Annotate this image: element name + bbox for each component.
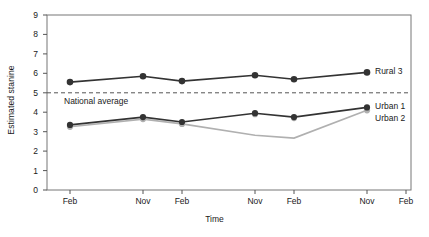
x-tick-label-3: Nov: [235, 196, 275, 206]
x-tick-label-4: Feb: [274, 196, 314, 206]
series-label-urban2: Urban 2: [375, 113, 405, 123]
series-markers-urban1: [67, 104, 370, 128]
x-tick-label-1: Nov: [123, 196, 163, 206]
series-line-rural3: [70, 72, 367, 82]
chart-figure: Estimated stanine 9 8 7 6 5 4 3 2 1 0: [0, 0, 429, 237]
y-tick-marks: [43, 15, 47, 190]
x-tick-marks: [70, 190, 406, 194]
national-average-label: National average: [64, 96, 128, 106]
x-tick-label-2: Feb: [162, 196, 202, 206]
series-label-urban1: Urban 1: [375, 101, 405, 111]
series-line-urban2: [70, 110, 367, 138]
x-tick-label-6: Feb: [386, 196, 426, 206]
x-axis-label: Time: [0, 214, 429, 224]
series-label-rural3: Rural 3: [375, 66, 402, 76]
series-markers-rural3: [67, 69, 371, 85]
x-tick-label-5: Nov: [347, 196, 387, 206]
x-tick-label-0: Feb: [50, 196, 90, 206]
